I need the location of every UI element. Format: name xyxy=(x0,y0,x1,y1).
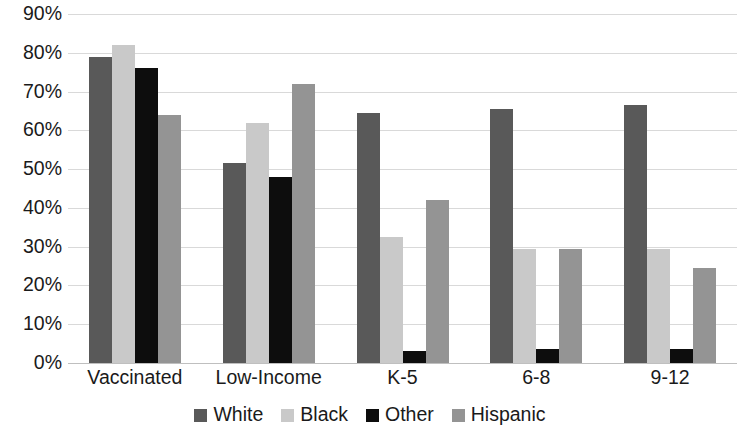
bar-group xyxy=(223,14,315,363)
legend-swatch-icon xyxy=(281,409,294,422)
bar xyxy=(223,163,246,363)
legend-item[interactable]: Hispanic xyxy=(452,405,546,425)
y-tick-label: 60% xyxy=(2,121,62,141)
bar-group xyxy=(624,14,716,363)
bar xyxy=(490,109,513,363)
legend-label: Hispanic xyxy=(471,405,546,425)
bar xyxy=(513,249,536,363)
y-tick-label: 40% xyxy=(2,198,62,218)
legend-swatch-icon xyxy=(366,409,379,422)
legend: WhiteBlackOtherHispanic xyxy=(0,405,740,425)
legend-swatch-icon xyxy=(194,409,207,422)
bar xyxy=(647,249,670,363)
legend-label: Other xyxy=(385,405,434,425)
bar xyxy=(670,349,693,363)
legend-label: Black xyxy=(300,405,348,425)
bar xyxy=(357,113,380,363)
y-tick-label: 10% xyxy=(2,314,62,334)
category-label: 6-8 xyxy=(522,368,550,388)
bar xyxy=(403,351,426,363)
bar xyxy=(269,177,292,363)
bar-group xyxy=(357,14,449,363)
category-label: Vaccinated xyxy=(87,368,182,388)
bar xyxy=(246,123,269,363)
bar xyxy=(380,237,403,363)
bar-group xyxy=(89,14,181,363)
bar xyxy=(135,68,158,363)
bar-chart: 0%10%20%30%40%50%60%70%80%90% Vaccinated… xyxy=(0,0,740,434)
bar xyxy=(693,268,716,363)
legend-swatch-icon xyxy=(452,409,465,422)
legend-label: White xyxy=(213,405,263,425)
category-label: Low-Income xyxy=(216,368,322,388)
legend-item[interactable]: Other xyxy=(366,405,434,425)
y-tick-label: 70% xyxy=(2,82,62,102)
y-tick-label: 90% xyxy=(2,4,62,24)
bar-group xyxy=(490,14,582,363)
y-axis: 0%10%20%30%40%50%60%70%80%90% xyxy=(0,0,62,434)
y-tick-label: 0% xyxy=(2,353,62,373)
bar xyxy=(292,84,315,363)
bar xyxy=(426,200,449,363)
bar xyxy=(624,105,647,363)
y-tick-label: 20% xyxy=(2,276,62,296)
bar xyxy=(536,349,559,363)
legend-item[interactable]: White xyxy=(194,405,263,425)
category-label: K-5 xyxy=(387,368,417,388)
bar xyxy=(559,249,582,363)
legend-item[interactable]: Black xyxy=(281,405,348,425)
gridline xyxy=(68,363,737,364)
plot-area xyxy=(68,14,737,363)
y-tick-label: 30% xyxy=(2,237,62,257)
bar xyxy=(158,115,181,363)
y-tick-label: 80% xyxy=(2,43,62,63)
bar xyxy=(89,57,112,363)
category-label: 9-12 xyxy=(651,368,690,388)
bar xyxy=(112,45,135,363)
y-tick-label: 50% xyxy=(2,159,62,179)
